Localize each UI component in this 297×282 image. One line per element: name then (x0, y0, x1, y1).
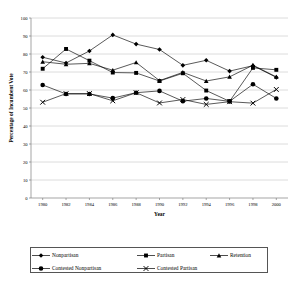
triangle-marker-icon (209, 251, 229, 260)
x-axis-tick-label: 1980 (38, 202, 48, 207)
circle-key (31, 264, 51, 273)
line-chart-svg: 0102030405060708090100198019821984198619… (0, 0, 297, 232)
x-axis-tick-label: 1986 (108, 202, 118, 207)
y-axis-tick-label: 50 (23, 106, 28, 111)
x-axis-tick-label: 1996 (225, 202, 235, 207)
diamond-marker-icon (31, 251, 51, 260)
legend-row-1: Nonpartisan Partisan Retention (31, 249, 267, 261)
legend-label: Partisan (156, 252, 178, 258)
x-axis-tick-label: 1988 (132, 202, 142, 207)
series-nonpartisan (40, 33, 278, 80)
legend-item-contested-partisan: Contested Partisan (136, 264, 201, 273)
cross-marker-icon (136, 264, 156, 273)
x-axis-title: Year (154, 211, 165, 217)
legend-label: Contested Partisan (156, 265, 201, 271)
x-axis-tick-label: 1984 (85, 202, 95, 207)
data-point-diamond (181, 63, 186, 68)
data-point-circle (274, 96, 279, 101)
data-point-circle (157, 89, 162, 94)
x-axis-tick-label: 1990 (155, 202, 165, 207)
data-point-square (274, 68, 278, 72)
y-axis-tick-label: 0 (25, 196, 28, 201)
data-point-diamond (110, 33, 115, 38)
circle-marker-icon (31, 264, 51, 273)
y-axis-title: Percentage of Incumbent Vote (8, 73, 14, 143)
legend-row-2: Contested Nonpartisan Contested Partisan (31, 262, 267, 274)
legend-label: Contested Nonpartisan (51, 265, 105, 271)
y-axis-tick-label: 80 (23, 52, 28, 57)
y-axis-tick-label: 60 (23, 88, 28, 93)
x-axis-tick-label: 2000 (272, 202, 282, 207)
data-point-square (204, 89, 208, 93)
y-axis-tick-label: 20 (23, 160, 28, 165)
diamond-key (31, 251, 51, 260)
series-partisan (41, 47, 279, 103)
x-axis-tick-label: 1994 (202, 202, 212, 207)
data-point-diamond (40, 55, 45, 60)
square-key (136, 251, 156, 260)
data-point-diamond (134, 42, 139, 47)
legend-item-retention: Retention (209, 251, 255, 260)
y-axis-tick-label: 100 (21, 16, 29, 21)
series-line (43, 62, 277, 81)
data-point-diamond (227, 69, 232, 74)
legend-item-partisan: Partisan (136, 251, 209, 260)
y-axis-tick-label: 30 (23, 142, 28, 147)
data-point-triangle (134, 60, 139, 64)
y-axis-tick-label: 10 (23, 178, 28, 183)
data-point-circle (251, 82, 256, 87)
data-point-diamond (157, 47, 162, 52)
legend-label: Retention (229, 252, 255, 258)
square-marker-icon (136, 251, 156, 260)
plot-area: 0102030405060708090100198019821984198619… (0, 0, 297, 232)
legend-label: Nonpartisan (51, 252, 82, 258)
data-point-circle (204, 96, 209, 101)
data-point-triangle (251, 63, 256, 67)
data-point-triangle (227, 75, 232, 79)
legend-key-marker (144, 253, 148, 257)
data-point-circle (40, 83, 45, 88)
legend-item-contested-nonpartisan: Contested Nonpartisan (31, 264, 136, 273)
y-axis-tick-label: 90 (23, 34, 28, 39)
chart-figure: 0102030405060708090100198019821984198619… (0, 0, 297, 282)
data-point-diamond (87, 49, 92, 54)
legend-key-marker (39, 253, 44, 258)
y-axis-tick-label: 40 (23, 124, 28, 129)
triangle-key (209, 251, 229, 260)
chart-legend: Nonpartisan Partisan Retention Contested… (30, 247, 268, 273)
y-axis-tick-label: 70 (23, 70, 28, 75)
data-point-square (134, 71, 138, 75)
data-point-square (64, 47, 68, 51)
data-point-square (41, 67, 45, 71)
x-axis-tick-label: 1992 (178, 202, 188, 207)
legend-item-nonpartisan: Nonpartisan (31, 251, 136, 260)
x-axis-tick-label: 1982 (61, 202, 71, 207)
x-axis-tick-label: 1998 (248, 202, 258, 207)
data-point-triangle (40, 59, 45, 63)
series-contested-nonpartisan (40, 82, 278, 104)
data-point-diamond (204, 58, 209, 63)
cross-key (136, 264, 156, 273)
legend-key-marker (39, 266, 44, 271)
series-retention (40, 59, 278, 82)
